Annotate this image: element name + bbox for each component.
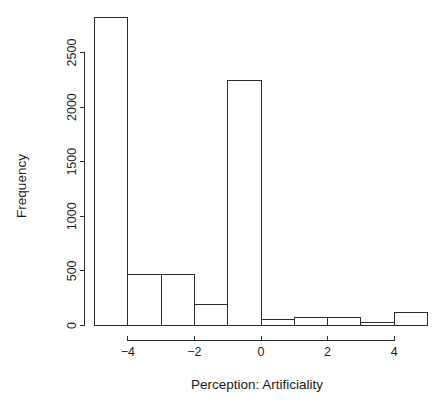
histogram-chart: 05001000150020002500 −4−2024 Frequency P… <box>0 0 446 414</box>
x-axis-tick-label: 2 <box>324 345 331 359</box>
x-axis-tick-label: −4 <box>121 345 135 359</box>
y-axis-tick-label: 2500 <box>65 39 79 67</box>
histogram-bar <box>194 305 227 326</box>
y-axis-tick-label: 2000 <box>65 93 79 121</box>
x-axis-tick-label: 0 <box>258 345 265 359</box>
x-axis-title: Perception: Artificiality <box>191 377 323 392</box>
histogram-bar <box>161 274 194 325</box>
y-axis-title: Frequency <box>14 154 29 218</box>
histogram-bar <box>95 18 128 326</box>
y-axis-tick-label: 0 <box>65 322 79 329</box>
x-axis-tick-label: 4 <box>391 345 398 359</box>
histogram-bar <box>328 318 361 326</box>
histogram-plot-panel: 05001000150020002500 −4−2024 Frequency P… <box>0 0 446 414</box>
y-axis-tick-label: 500 <box>65 260 79 281</box>
histogram-bar <box>261 319 294 325</box>
histogram-bar <box>394 312 427 325</box>
histogram-bar <box>294 318 327 326</box>
y-axis-tick-label: 1000 <box>65 202 79 230</box>
histogram-bar <box>128 274 161 325</box>
histogram-bar <box>228 81 261 326</box>
x-axis-tick-label: −2 <box>187 345 201 359</box>
y-axis-tick-label: 1500 <box>65 148 79 176</box>
